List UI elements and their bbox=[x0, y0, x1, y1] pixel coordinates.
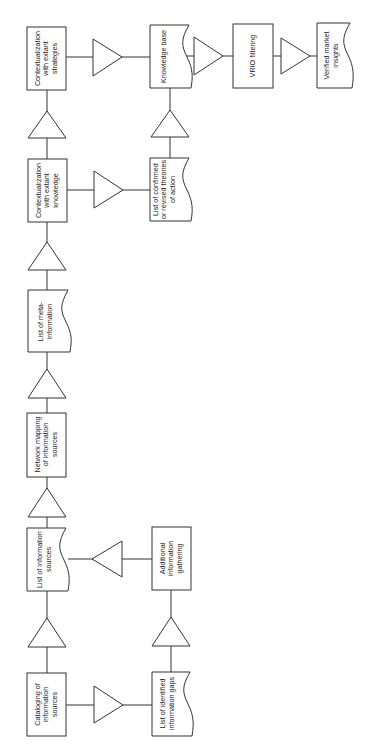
node-label-list-of-identified-gaps: List of identified information gaps bbox=[148, 672, 187, 735]
flow-triangle-icon bbox=[281, 38, 310, 74]
node-label-cataloging-of-information-sources: Cataloging of information sources bbox=[27, 673, 66, 736]
node-label-list-of-information-sources: List of information sources bbox=[25, 528, 64, 591]
node-label-additional-information-gathering: Additional information gathering bbox=[152, 527, 191, 590]
flow-triangle-icon bbox=[151, 110, 189, 137]
flow-triangle-icon bbox=[28, 488, 66, 517]
node-label-vrio-filtering: VRIO filtering bbox=[233, 24, 273, 88]
flow-triangle-icon bbox=[28, 242, 66, 270]
flow-triangle-icon bbox=[152, 617, 190, 646]
node-label-contextualization-strategies: Contextualization with extant strategies bbox=[27, 27, 66, 90]
flowchart-canvas bbox=[0, 0, 371, 752]
flow-triangle-icon bbox=[94, 686, 123, 723]
flow-triangle-icon bbox=[93, 39, 122, 76]
node-label-contextualization-knowledge: Contextualization with extant knowledge bbox=[28, 159, 67, 222]
node-label-verified-market-insights: Verified market insights bbox=[312, 24, 351, 87]
node-label-knowledge-base: Knowledge base bbox=[145, 25, 184, 88]
flow-triangle-icon bbox=[28, 369, 66, 398]
flow-triangle-icon bbox=[92, 541, 122, 577]
node-label-list-of-confirmed-theories: List of confirmed or revised theories of… bbox=[145, 158, 184, 221]
flow-triangle-icon bbox=[28, 111, 66, 138]
flow-triangle-icon bbox=[28, 618, 66, 647]
node-label-list-of-meta-information: List of meta- information bbox=[26, 290, 65, 353]
flow-triangle-icon bbox=[94, 171, 123, 208]
node-label-network-mapping: Network mapping of information sources bbox=[27, 412, 66, 477]
flow-triangle-icon bbox=[194, 37, 223, 75]
